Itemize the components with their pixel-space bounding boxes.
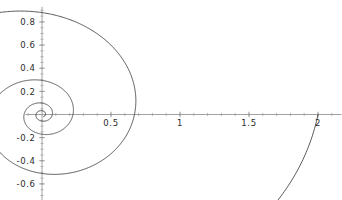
y-tick-label: 0.4 xyxy=(20,63,35,73)
y-tick-label: 0.6 xyxy=(20,40,35,50)
plot-background xyxy=(0,0,342,200)
polar-spiral-plot: 0.511.52 0.80.60.40.2-0.2-0.4-0.6 xyxy=(0,0,342,200)
x-tick-label: 1 xyxy=(177,118,183,128)
x-tick-label: 0.5 xyxy=(103,118,118,128)
y-tick-label: -0.4 xyxy=(17,156,36,166)
y-tick-label: -0.6 xyxy=(17,179,36,189)
y-tick-label: 0.8 xyxy=(20,17,35,27)
x-tick-label: 1.5 xyxy=(241,118,256,128)
y-tick-label: -0.2 xyxy=(17,133,36,143)
y-tick-label: 0.2 xyxy=(20,87,35,97)
plot-canvas: 0.511.52 0.80.60.40.2-0.2-0.4-0.6 xyxy=(0,0,342,200)
